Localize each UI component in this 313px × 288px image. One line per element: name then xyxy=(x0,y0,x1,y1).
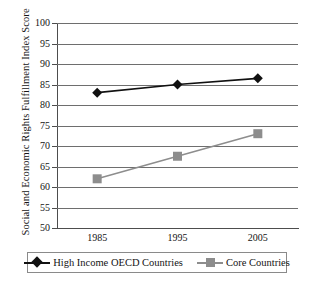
legend-marker-square xyxy=(197,257,223,268)
legend-label-high-income-oecd: High Income OECD Countries xyxy=(53,257,183,268)
data-point-diamond xyxy=(173,80,183,90)
data-point-diamond xyxy=(92,88,102,98)
series-layer xyxy=(0,0,313,288)
legend-label-core-countries: Core Countries xyxy=(226,257,290,268)
cropped-caption-text xyxy=(6,281,307,288)
data-point-diamond xyxy=(253,73,263,83)
data-point-square xyxy=(93,174,102,183)
chart-legend: High Income OECD Countries Core Countrie… xyxy=(27,252,287,273)
legend-entry-high-income-oecd: High Income OECD Countries xyxy=(24,257,183,268)
line-chart-figure: Social and Economic Rights Fulfillment I… xyxy=(0,0,313,288)
data-point-square xyxy=(253,129,262,138)
legend-entry-core-countries: Core Countries xyxy=(197,257,290,268)
data-point-square xyxy=(173,152,182,161)
legend-marker-diamond xyxy=(24,257,50,268)
